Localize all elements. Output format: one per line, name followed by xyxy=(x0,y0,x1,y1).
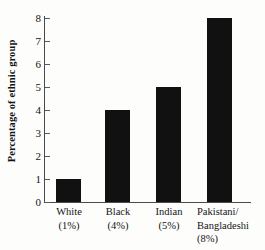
x-axis-label-line: (5%) xyxy=(145,219,193,233)
bar xyxy=(56,179,81,202)
x-axis-label: Black(4%) xyxy=(95,205,141,232)
x-axis-label-line: (4%) xyxy=(95,219,141,233)
x-axis-label: Pakistani/Bangladeshi(8%) xyxy=(197,205,265,246)
x-axis-label-line: Black xyxy=(95,205,141,219)
bar xyxy=(156,87,181,202)
x-axis-label-line: (8%) xyxy=(197,232,265,246)
x-axis-label: White(1%) xyxy=(46,205,92,232)
bar-chart: Percentage of ethnic group 012345678 Whi… xyxy=(0,0,265,250)
x-axis-label-line: (1%) xyxy=(46,219,92,233)
x-axis-label: Indian(5%) xyxy=(145,205,193,232)
bars-layer xyxy=(0,0,265,202)
x-axis-line xyxy=(44,202,251,203)
y-tick xyxy=(45,202,50,203)
x-axis-label-line: Indian xyxy=(145,205,193,219)
x-axis-labels: White(1%)Black(4%)Indian(5%)Pakistani/Ba… xyxy=(0,205,265,250)
x-axis-label-line: Pakistani/ xyxy=(197,205,265,219)
bar xyxy=(105,110,130,202)
x-axis-label-line: White xyxy=(46,205,92,219)
bar xyxy=(207,18,232,202)
x-axis-label-line: Bangladeshi xyxy=(197,219,265,233)
